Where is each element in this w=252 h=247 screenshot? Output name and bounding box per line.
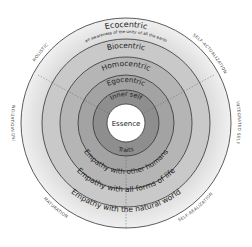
traits-label: Traits <box>117 145 134 153</box>
svg-text:INTEGRATED SELF: INTEGRATED SELF <box>235 101 242 145</box>
svg-text:Traits: Traits <box>117 145 134 153</box>
integrated-self-label: INTEGRATED SELF <box>235 101 242 145</box>
svg-text:INDIVIDUATION: INDIVIDUATION <box>10 105 16 142</box>
individuation-label: INDIVIDUATION <box>10 105 16 142</box>
empathy-rings-diagram: Essence Ecocentric an awareness of the u… <box>0 0 252 247</box>
essence-label: Essence <box>112 120 141 128</box>
